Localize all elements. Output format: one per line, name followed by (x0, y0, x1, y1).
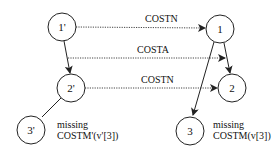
node-2: 2 (218, 74, 246, 102)
svg-text:missing: missing (57, 119, 88, 130)
node-2-prime: 2' (57, 74, 85, 102)
diagram-canvas: COSTN COSTA COSTN 1' 1 2' 2 3' 3 missing… (0, 0, 275, 152)
edge-label-costn-mid: COSTN (141, 74, 174, 85)
edge-2p-3p (42, 98, 61, 117)
svg-text:3: 3 (187, 125, 193, 137)
node-1-prime: 1' (48, 13, 76, 41)
svg-text:3': 3' (27, 124, 35, 136)
svg-text:2: 2 (229, 82, 235, 94)
node-3: 3 (176, 117, 204, 145)
edge-label-costn-top: COSTN (145, 13, 178, 24)
edge-costn-top: COSTN (76, 13, 205, 28)
svg-text:2': 2' (67, 82, 75, 94)
annotation-left: missing COSTM'(v'[3]) (57, 119, 118, 142)
svg-text:COSTM(v[3]): COSTM(v[3]) (213, 130, 271, 142)
svg-text:missing: missing (213, 119, 244, 130)
edge-1p-2p (64, 41, 70, 73)
node-3-prime: 3' (17, 116, 45, 144)
edge-label-costa: COSTA (137, 44, 170, 55)
diagram-svg: COSTN COSTA COSTN 1' 1 2' 2 3' 3 missing… (0, 0, 275, 152)
edge-costn-mid: COSTN (85, 74, 217, 88)
svg-text:COSTM'(v'[3]): COSTM'(v'[3]) (57, 130, 118, 142)
svg-text:1: 1 (217, 23, 223, 35)
edge-1-3 (193, 42, 214, 115)
annotation-right: missing COSTM(v[3]) (213, 119, 271, 142)
edge-costa: COSTA (68, 44, 225, 58)
svg-text:1': 1' (58, 21, 66, 33)
node-1: 1 (206, 15, 234, 43)
